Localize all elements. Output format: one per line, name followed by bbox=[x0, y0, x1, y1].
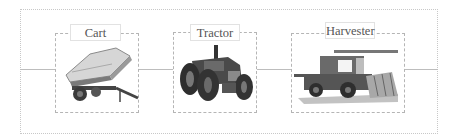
harvester-image bbox=[294, 46, 404, 104]
cart-trailer-image bbox=[60, 42, 140, 104]
node-label-cart: Cart bbox=[70, 24, 121, 41]
connector-line-left bbox=[20, 69, 55, 70]
connector-line-right bbox=[405, 69, 438, 70]
node-label-harvester: Harvester bbox=[325, 22, 375, 39]
connector-line-cart-tractor bbox=[139, 69, 173, 70]
tractor-image bbox=[178, 43, 256, 103]
node-label-tractor: Tractor bbox=[190, 24, 240, 41]
connector-line-tractor-harvester bbox=[257, 69, 291, 70]
